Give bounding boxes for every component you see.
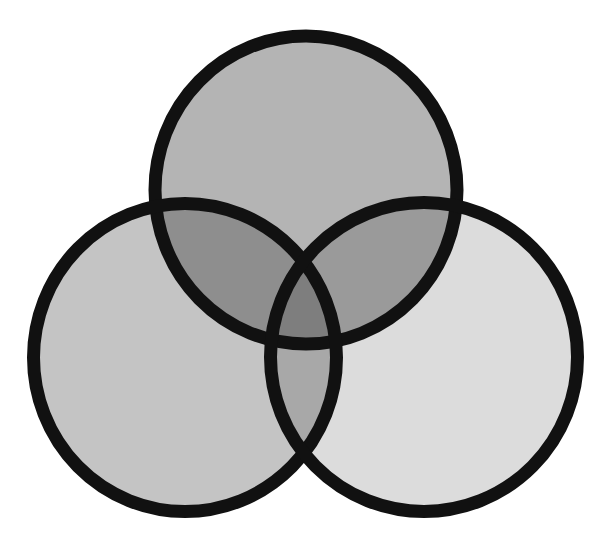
venn-diagram [0, 0, 608, 549]
